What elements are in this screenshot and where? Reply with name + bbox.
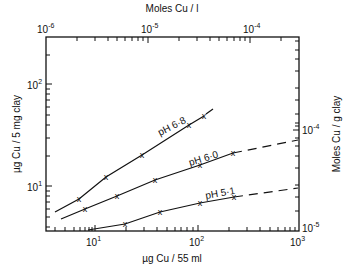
y2-tick-10-4: 10-4 [302, 123, 319, 136]
svg-text:x: x [231, 148, 236, 158]
y2-axis-ticks [293, 41, 299, 211]
label-ph-6-0: pH 6·0 [187, 148, 219, 167]
svg-text:x: x [77, 194, 82, 204]
chart: 101 102 103 10-6 10-5 10-4 102 101 10-4 … [0, 0, 347, 268]
x2-tick-10-6: 10-6 [37, 22, 54, 35]
svg-text:x: x [140, 150, 145, 160]
x-axis-title: µg Cu / 55 ml [142, 253, 202, 264]
x2-tick-10-4: 10-4 [243, 22, 260, 35]
x-tick-10-1: 101 [86, 235, 101, 248]
svg-text:x: x [202, 111, 207, 121]
label-ph-6-8: pH 6·8 [156, 114, 188, 138]
svg-text:x: x [153, 175, 158, 185]
svg-text:x: x [158, 207, 163, 217]
x-tick-10-3: 103 [290, 235, 305, 248]
svg-text:x: x [198, 198, 203, 208]
x-tick-10-2: 102 [189, 235, 204, 248]
y-tick-10-2: 102 [27, 78, 42, 91]
y2-axis-title: Moles Cu / g clay [331, 96, 342, 173]
plot-frame [46, 37, 299, 231]
svg-text:x: x [187, 120, 192, 130]
y-axis-title: µg Cu / 5 mg clay [11, 95, 22, 173]
y2-tick-10-5: 10-5 [302, 221, 319, 234]
x2-tick-10-5: 10-5 [141, 22, 158, 35]
svg-text:x: x [115, 191, 120, 201]
svg-text:x: x [104, 172, 109, 182]
x2-axis-ticks [77, 37, 281, 43]
y-tick-10-1: 101 [27, 180, 42, 193]
y-axis-ticks [46, 55, 52, 227]
svg-text:x: x [123, 219, 128, 229]
x2-axis-title: Moles Cu / l [146, 3, 199, 14]
svg-text:x: x [83, 204, 88, 214]
